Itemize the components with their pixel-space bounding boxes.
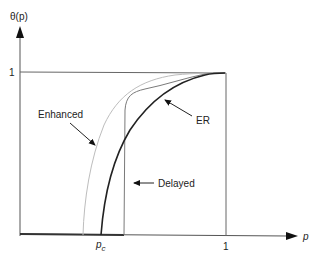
theta-one-line: [20, 72, 226, 73]
x-axis-arrow-icon: [286, 232, 298, 240]
label-enhanced: Enhanced: [38, 109, 83, 120]
zero-baseline-thick: [20, 234, 124, 235]
x-axis-label: p: [302, 231, 309, 242]
label-er: ER: [196, 115, 210, 126]
y-axis-arrow-icon: [16, 26, 24, 38]
y-tick-1: 1: [9, 67, 15, 78]
x-tick-1: 1: [223, 241, 229, 252]
annotation-enhanced: Enhanced: [38, 109, 95, 145]
annotation-er: ER: [165, 100, 210, 126]
y-axis: θ(p) 1: [9, 11, 28, 236]
curve-delayed: [124, 73, 224, 235]
annotation-delayed: Delayed: [134, 178, 195, 189]
y-axis-label: θ(p): [10, 11, 28, 22]
curve-er: [101, 73, 225, 235]
x-tick-pc: pc: [95, 239, 106, 253]
label-delayed: Delayed: [158, 178, 195, 189]
percolation-chart: θ(p) 1 p 1 pc Enhanced ER Delayed: [0, 0, 316, 256]
